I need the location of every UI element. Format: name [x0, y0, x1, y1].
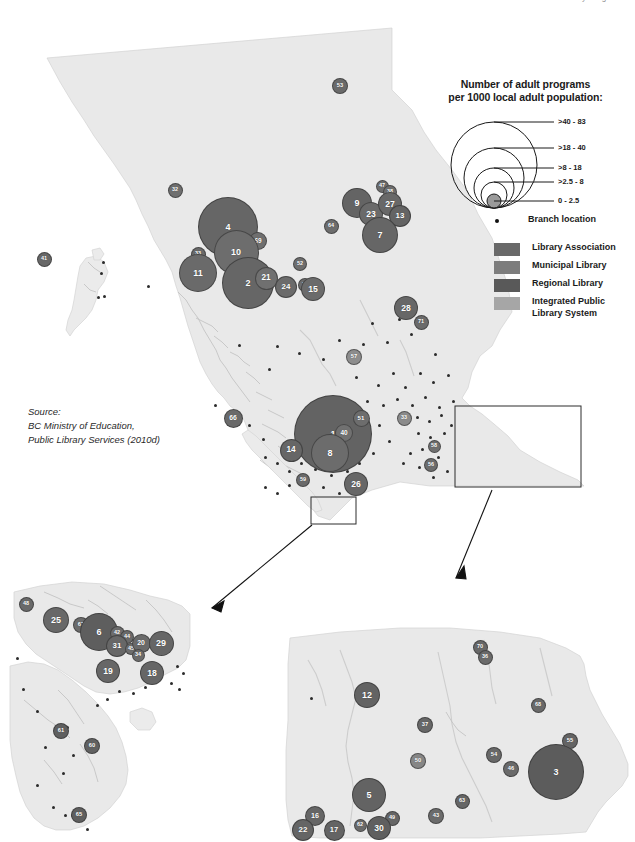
bubble-17: 17 [324, 820, 345, 841]
bubble-label: 54 [491, 752, 497, 758]
bubble-label: 49 [389, 815, 395, 821]
legend-branch-row: Branch location [418, 212, 633, 230]
bubble-label: 29 [156, 639, 166, 648]
bubble-label: 25 [51, 616, 61, 625]
nested-circles-icon [418, 108, 633, 216]
bubble-26: 26 [344, 472, 368, 496]
legend-title-line2: per 1000 local adult population: [418, 91, 633, 104]
bubble-label: 57 [351, 354, 357, 360]
bubble-label: 19 [103, 667, 113, 676]
bubble-label: 64 [328, 223, 334, 229]
bubble-label: 56 [428, 462, 434, 468]
bubble-label: 55 [567, 738, 573, 744]
bubble-7: 7 [362, 217, 398, 253]
bubble-61: 61 [53, 723, 69, 739]
map-figure: Adult Library Programs .land { fill:#e9e… [0, 0, 635, 842]
bubble-label: 30 [374, 824, 384, 833]
bubble-label: 58 [431, 443, 437, 449]
legend-category-label: Integrated Public Library System [532, 296, 605, 319]
bubble-label: 8 [327, 449, 332, 458]
bubble-label: 7 [377, 231, 382, 240]
bubble-48: 48 [19, 597, 34, 612]
bubble-59: 59 [296, 473, 310, 487]
bubble-66: 66 [224, 409, 243, 428]
legend-category-row: Municipal Library [418, 260, 633, 274]
bubble-label: 28 [401, 304, 411, 313]
bubble-68: 68 [531, 698, 546, 713]
bubble-label: 20 [137, 640, 145, 647]
bubble-label: 65 [76, 812, 82, 818]
bubble-28: 28 [394, 296, 418, 320]
bubble-24: 24 [275, 276, 297, 298]
bubble-14: 14 [280, 439, 303, 462]
bubble-label: 68 [535, 702, 541, 708]
bubble-label: 6 [96, 628, 101, 637]
legend-category-label: Municipal Library [532, 260, 607, 271]
bubble-label: 61 [58, 728, 64, 734]
bubble-33: 33 [397, 411, 412, 426]
bubble-label: 52 [297, 261, 303, 267]
bubble-56: 56 [424, 458, 438, 472]
bubble-46: 46 [503, 761, 519, 777]
bubble-label: 53 [337, 83, 343, 89]
bubble-57: 57 [346, 349, 362, 365]
bubble-36: 36 [478, 650, 493, 665]
bubble-54: 54 [486, 747, 502, 763]
bubble-63: 63 [455, 794, 470, 809]
bubble-label: 62 [357, 822, 363, 828]
bubble-19: 19 [96, 659, 120, 683]
legend-category-row: Regional Library [418, 278, 633, 292]
size-class-label-2: >8 - 18 [558, 163, 582, 172]
bubble-label: 46 [508, 766, 514, 772]
bubble-41: 41 [37, 252, 52, 267]
legend-color-swatch [494, 243, 520, 256]
bubble-label: 16 [311, 812, 319, 819]
bubble-label: 34 [135, 652, 141, 658]
bubble-52: 52 [293, 257, 307, 271]
bubble-label: 3 [553, 768, 558, 777]
bubble-53: 53 [332, 78, 348, 94]
bubble-22: 22 [292, 819, 314, 841]
bubble-18: 18 [140, 661, 164, 685]
bubble-label: 15 [308, 285, 318, 294]
legend-color-swatch [494, 261, 520, 274]
size-class-label-1: >18 - 40 [558, 143, 586, 152]
bubble-60: 60 [84, 738, 100, 754]
bubble-label: 36 [482, 654, 488, 660]
bubble-label: 33 [401, 415, 407, 421]
bubble-32: 32 [168, 183, 183, 198]
size-class-label-3: >2.5 - 8 [558, 177, 584, 186]
legend-category-swatches: Library AssociationMunicipal LibraryRegi… [418, 242, 633, 319]
legend-title: Number of adult programs per 1000 local … [418, 78, 633, 104]
bubble-label: 63 [459, 798, 465, 804]
legend-category-row: Integrated Public Library System [418, 296, 633, 319]
bubble-62: 62 [354, 819, 367, 832]
legend-category-row: Library Association [418, 242, 633, 256]
bubble-58: 58 [428, 440, 441, 453]
bubble-label: 5 [366, 791, 371, 800]
legend-title-line1: Number of adult programs [418, 78, 633, 91]
bubble-label: 18 [147, 669, 157, 678]
bubble-3: 3 [528, 744, 584, 800]
bubble-51: 51 [353, 410, 370, 427]
bubble-34: 34 [132, 649, 145, 662]
legend-size-classes: >40 - 83 >18 - 40 >8 - 18 >2.5 - 8 0 - 2… [418, 108, 633, 216]
branch-location-label: Branch location [528, 214, 596, 224]
bubble-label: 51 [358, 415, 365, 421]
bubble-label: 43 [433, 813, 439, 819]
bubble-65: 65 [71, 807, 87, 823]
bubble-37: 37 [417, 717, 433, 733]
legend-category-label: Regional Library [532, 278, 603, 289]
bubble-label: 59 [300, 477, 306, 483]
legend: Number of adult programs per 1000 local … [418, 78, 633, 323]
bubble-label: 41 [41, 256, 47, 262]
bubble-label: 14 [286, 446, 295, 454]
bubble-label: 31 [113, 642, 122, 650]
bubble-12: 12 [354, 682, 380, 708]
bubble-11: 11 [179, 254, 217, 292]
size-class-label-0: >40 - 83 [558, 117, 586, 126]
bubble-label: 32 [172, 187, 178, 193]
legend-category-label: Library Association [532, 242, 616, 253]
bubble-label: 37 [422, 722, 428, 728]
bubble-29: 29 [149, 631, 174, 656]
